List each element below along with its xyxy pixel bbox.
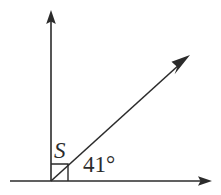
angle-measure-label: 41°	[83, 153, 115, 176]
angle-diagram-figure: S 41°	[0, 0, 221, 195]
vertex-label-s: S	[54, 139, 66, 162]
slanted-ray-arrowhead	[172, 55, 191, 74]
slanted-ray-line	[51, 64, 180, 181]
